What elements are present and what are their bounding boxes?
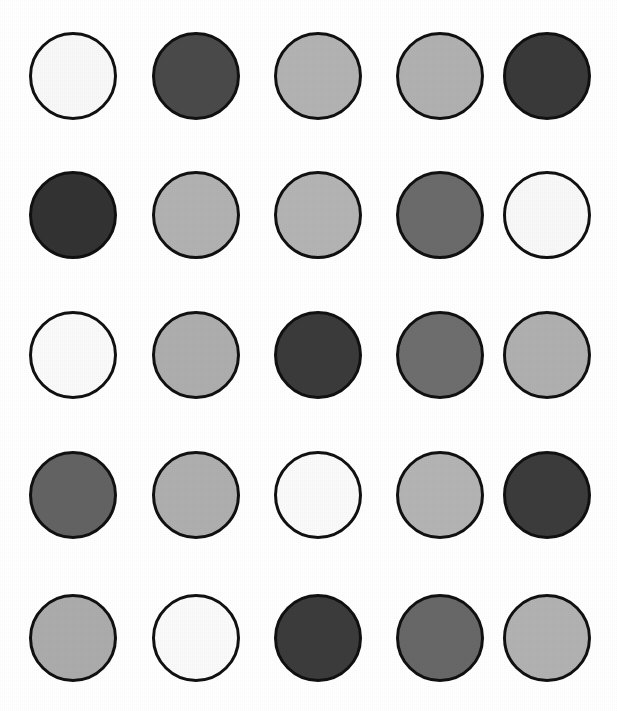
circle-r2c3 [274, 171, 362, 259]
circle-r4c4 [396, 451, 484, 539]
circle-r1c1 [29, 32, 117, 120]
circle-r4c5 [503, 451, 591, 539]
circle-r4c2 [152, 451, 240, 539]
circle-r1c5 [503, 32, 591, 120]
circle-r4c1 [29, 451, 117, 539]
circle-r3c4 [396, 311, 484, 399]
circle-r1c2 [152, 32, 240, 120]
circle-r1c3 [274, 32, 362, 120]
circle-r1c4 [396, 32, 484, 120]
circle-r2c2 [152, 171, 240, 259]
circle-r3c5 [503, 311, 591, 399]
circle-r4c3 [274, 451, 362, 539]
circle-grid [0, 0, 617, 711]
circle-r5c3 [274, 594, 362, 682]
circle-r2c1 [29, 171, 117, 259]
circle-r3c1 [29, 311, 117, 399]
circle-r5c5 [503, 594, 591, 682]
circle-r3c3 [274, 311, 362, 399]
circle-r2c5 [503, 171, 591, 259]
circle-r5c1 [29, 594, 117, 682]
circle-r5c2 [152, 594, 240, 682]
image-canvas [0, 0, 617, 711]
circle-r5c4 [396, 594, 484, 682]
circle-r2c4 [396, 171, 484, 259]
circle-r3c2 [152, 311, 240, 399]
